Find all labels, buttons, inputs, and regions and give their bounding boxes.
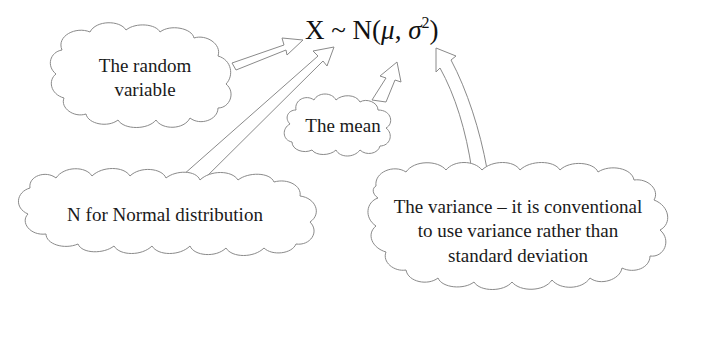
label-line: variable xyxy=(70,78,220,102)
label-mean: The mean xyxy=(298,114,388,138)
exponent: 2 xyxy=(422,14,430,31)
label-line: The random xyxy=(70,54,220,78)
close-paren: ) xyxy=(430,15,439,45)
comma: , xyxy=(395,15,402,45)
label-random-variable: The random variable xyxy=(70,54,220,103)
tilde-symbol: ~ xyxy=(331,15,346,45)
mean-symbol: μ xyxy=(381,15,395,45)
label-line: The variance – it is conventional xyxy=(378,195,658,219)
arrow-variance xyxy=(436,48,487,171)
sigma-symbol: σ xyxy=(408,15,421,45)
label-line: to use variance rather than xyxy=(378,219,658,243)
label-variance: The variance – it is conventional to use… xyxy=(378,195,658,268)
normal-distribution-formula: X ~ N(μ, σ2) xyxy=(305,14,439,46)
distribution-symbol: N( xyxy=(353,15,382,45)
arrow-mean xyxy=(372,62,401,102)
label-normal: N for Normal distribution xyxy=(30,203,300,227)
diagram-canvas xyxy=(0,0,715,339)
arrow-random-variable xyxy=(232,38,303,70)
label-line: standard deviation xyxy=(378,244,658,268)
random-variable-symbol: X xyxy=(305,15,325,45)
